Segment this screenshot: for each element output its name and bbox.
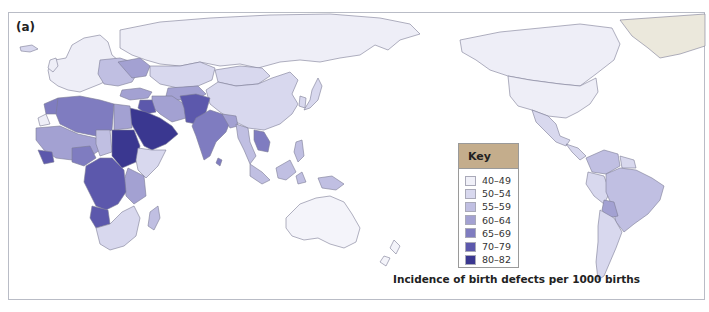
legend-label: 40–49: [482, 175, 511, 186]
region-chad: [96, 130, 112, 156]
region-western-sahara: [38, 114, 50, 126]
region-central-africa: [84, 158, 126, 210]
legend-label: 60–64: [482, 215, 511, 226]
panel-label: (a): [16, 20, 35, 34]
legend-swatch: [465, 228, 476, 238]
legend-item: 70–79: [465, 240, 518, 253]
region-central-america: [566, 144, 586, 160]
region-new-zealand: [380, 240, 400, 266]
region-madagascar: [148, 206, 160, 230]
region-guinea-coast: [38, 150, 54, 164]
world-map: [0, 0, 709, 312]
region-png: [318, 176, 344, 190]
legend-item: 50–54: [465, 187, 518, 200]
region-laos-cambodia: [254, 130, 270, 152]
legend: Key 40–49 50–54 55–59 60–64 65–69 70–79 …: [458, 143, 519, 268]
legend-label: 70–79: [482, 241, 511, 252]
region-iceland: [20, 45, 38, 52]
map-caption: Incidence of birth defects per 1000 birt…: [393, 273, 640, 285]
region-egypt: [114, 104, 132, 130]
region-greenland: [620, 14, 705, 58]
legend-item: 40–49: [465, 174, 518, 187]
legend-item: 60–64: [465, 214, 518, 227]
region-ethiopia-somalia: [136, 148, 166, 178]
legend-swatch: [465, 189, 476, 199]
region-turkey: [120, 88, 152, 100]
legend-swatch: [465, 202, 476, 212]
region-myanmar-thailand: [236, 124, 256, 164]
legend-item: 55–59: [465, 200, 518, 213]
legend-items: 40–49 50–54 55–59 60–64 65–69 70–79 80–8…: [459, 169, 518, 266]
region-indonesia: [250, 160, 306, 184]
legend-label: 50–54: [482, 188, 511, 199]
legend-swatch: [465, 176, 476, 186]
legend-title: Key: [459, 144, 518, 169]
region-japan: [304, 78, 322, 110]
region-philippines: [294, 140, 304, 162]
region-sri-lanka: [216, 158, 222, 166]
legend-swatch: [465, 255, 476, 265]
legend-item: 80–82: [465, 253, 518, 266]
legend-label: 80–82: [482, 254, 511, 265]
legend-item: 65–69: [465, 227, 518, 240]
region-kazakhstan: [150, 62, 215, 88]
legend-swatch: [465, 215, 476, 225]
region-russia: [120, 14, 420, 68]
legend-label: 65–69: [482, 228, 511, 239]
legend-swatch: [465, 242, 476, 252]
region-guianas: [620, 156, 636, 168]
region-korea: [299, 96, 306, 108]
legend-label: 55–59: [482, 201, 511, 212]
region-canada-alaska: [460, 24, 620, 86]
region-australia: [286, 196, 360, 248]
